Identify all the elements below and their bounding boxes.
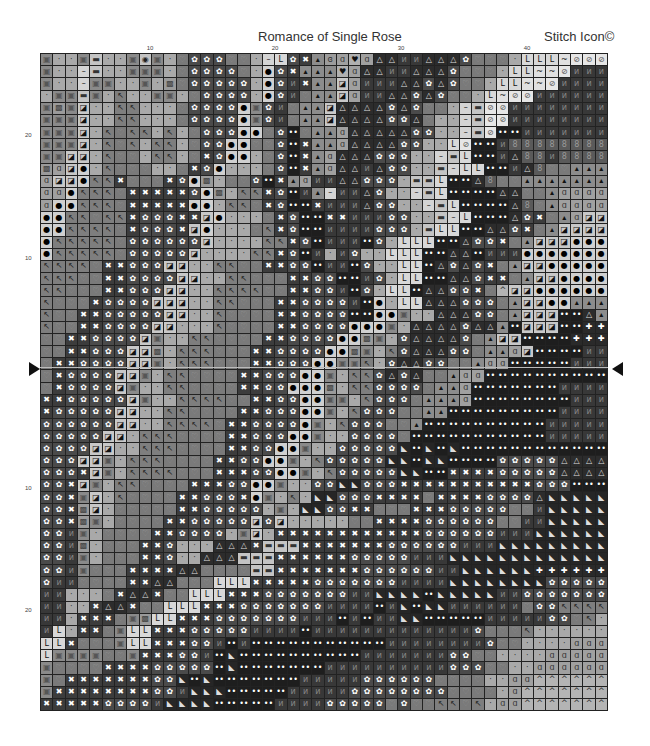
stitch-cell: •• bbox=[349, 638, 360, 649]
stitch-cell: ◣ bbox=[534, 541, 545, 552]
stitch-cell: ♡ bbox=[78, 273, 89, 284]
stitch-cell: ↖ bbox=[152, 468, 163, 479]
stitch-cell: ✖ bbox=[189, 212, 200, 223]
stitch-cell: · bbox=[374, 285, 385, 296]
stitch-cell: •• bbox=[472, 249, 483, 260]
stitch-cell: ◪ bbox=[509, 334, 520, 345]
stitch-cell: ᴎ bbox=[53, 614, 64, 625]
stitch-cell: •• bbox=[485, 200, 496, 211]
stitch-cell: ◪ bbox=[522, 346, 533, 357]
stitch-cell: ♡ bbox=[263, 310, 274, 321]
stitch-cell: ᴎ bbox=[559, 431, 570, 442]
stitch-cell: · bbox=[386, 237, 397, 248]
stitch-cell: •• bbox=[435, 443, 446, 454]
stitch-cell: · bbox=[201, 273, 212, 284]
stitch-cell: ᴎ bbox=[53, 577, 64, 588]
stitch-cell: ♡ bbox=[201, 370, 212, 381]
stitch-cell: ✿ bbox=[374, 565, 385, 576]
stitch-cell: · bbox=[423, 151, 434, 162]
stitch-cell: •• bbox=[226, 675, 237, 686]
stitch-cell: ▣ bbox=[127, 383, 138, 394]
stitch-cell: ✖ bbox=[41, 699, 52, 710]
stitch-cell: ♡ bbox=[226, 334, 237, 345]
stitch-cell: ● bbox=[546, 297, 557, 308]
stitch-cell: •• bbox=[312, 224, 323, 235]
stitch-cell: ɑ bbox=[337, 127, 348, 138]
stitch-cell: ᴎ bbox=[275, 115, 286, 126]
stitch-cell: ✿ bbox=[374, 553, 385, 564]
stitch-cell: ▣ bbox=[152, 54, 163, 65]
stitch-cell: ✖ bbox=[485, 480, 496, 491]
stitch-cell: ᴎ bbox=[583, 115, 594, 126]
stitch-cell: · bbox=[361, 249, 372, 260]
stitch-cell: ✖ bbox=[349, 529, 360, 540]
stitch-cell: ♡ bbox=[214, 431, 225, 442]
stitch-cell: ^ bbox=[571, 699, 582, 710]
stitch-cell: ✿ bbox=[103, 699, 114, 710]
stitch-cell: L bbox=[214, 589, 225, 600]
stitch-cell: ɑ bbox=[583, 662, 594, 673]
stitch-cell: ♡ bbox=[103, 553, 114, 564]
stitch-cell: ↖ bbox=[226, 285, 237, 296]
stitch-cell: ▴ bbox=[559, 212, 570, 223]
stitch-cell: •• bbox=[435, 237, 446, 248]
stitch-cell: ● bbox=[300, 407, 311, 418]
stitch-cell: ◪ bbox=[534, 273, 545, 284]
stitch-cell: ✿ bbox=[349, 456, 360, 467]
stitch-cell: ✿ bbox=[448, 66, 459, 77]
stitch-cell: ✿ bbox=[337, 492, 348, 503]
stitch-cell: ▴ bbox=[583, 176, 594, 187]
stitch-cell: ◣ bbox=[226, 650, 237, 661]
stitch-cell: ✿ bbox=[263, 370, 274, 381]
stitch-cell: ◪ bbox=[66, 151, 77, 162]
stitch-cell: ⊘ bbox=[497, 115, 508, 126]
stitch-cell: L bbox=[398, 249, 409, 260]
stitch-cell: ♡ bbox=[127, 541, 138, 552]
stitch-cell: △ bbox=[583, 468, 594, 479]
stitch-cell: · bbox=[78, 589, 89, 600]
stitch-cell: ✿ bbox=[398, 565, 409, 576]
stitch-cell: ● bbox=[374, 322, 385, 333]
stitch-cell: •• bbox=[559, 443, 570, 454]
stitch-cell: ◪ bbox=[152, 297, 163, 308]
stitch-cell: L bbox=[152, 614, 163, 625]
stitch-cell: ✖ bbox=[288, 66, 299, 77]
stitch-cell: ♡ bbox=[78, 577, 89, 588]
stitch-cell: △ bbox=[435, 322, 446, 333]
stitch-cell: · bbox=[312, 468, 323, 479]
stitch-cell: ♡ bbox=[53, 310, 64, 321]
stitch-cell: •• bbox=[435, 614, 446, 625]
stitch-cell: •• bbox=[251, 662, 262, 673]
stitch-cell: ✿ bbox=[140, 224, 151, 235]
stitch-cell: ▴ bbox=[509, 261, 520, 272]
stitch-cell: ↖ bbox=[251, 188, 262, 199]
stitch-cell: ✿ bbox=[583, 577, 594, 588]
stitch-cell: ✿ bbox=[275, 346, 286, 357]
stitch-cell: ↖ bbox=[115, 480, 126, 491]
stitch-cell: ✖ bbox=[300, 553, 311, 564]
stitch-cell: ✿ bbox=[325, 480, 336, 491]
stitch-cell: ✿ bbox=[53, 516, 64, 527]
stitch-cell: ♡ bbox=[115, 650, 126, 661]
stitch-cell: ✿ bbox=[374, 468, 385, 479]
stitch-cell: ▣ bbox=[263, 492, 274, 503]
stitch-cell: ♡ bbox=[349, 516, 360, 527]
stitch-cell: ● bbox=[546, 285, 557, 296]
stitch-cell: ᴎ bbox=[66, 529, 77, 540]
stitch-cell: ᴎ bbox=[522, 127, 533, 138]
stitch-cell: ✿ bbox=[78, 431, 89, 442]
stitch-cell: •• bbox=[263, 662, 274, 673]
stitch-cell: 8 bbox=[571, 151, 582, 162]
stitch-cell: ✿ bbox=[472, 261, 483, 272]
stitch-cell: · bbox=[201, 310, 212, 321]
stitch-cell: ᴎ bbox=[448, 602, 459, 613]
stitch-cell: ✿ bbox=[472, 504, 483, 515]
stitch-cell: ♡ bbox=[263, 127, 274, 138]
stitch-cell: ▴ bbox=[559, 176, 570, 187]
stitch-cell: △ bbox=[509, 151, 520, 162]
stitch-cell: ◣ bbox=[423, 456, 434, 467]
stitch-cell: ✿ bbox=[201, 78, 212, 89]
stitch-cell: · bbox=[189, 541, 200, 552]
stitch-cell: ✿ bbox=[300, 237, 311, 248]
stitch-cell: · bbox=[189, 553, 200, 564]
